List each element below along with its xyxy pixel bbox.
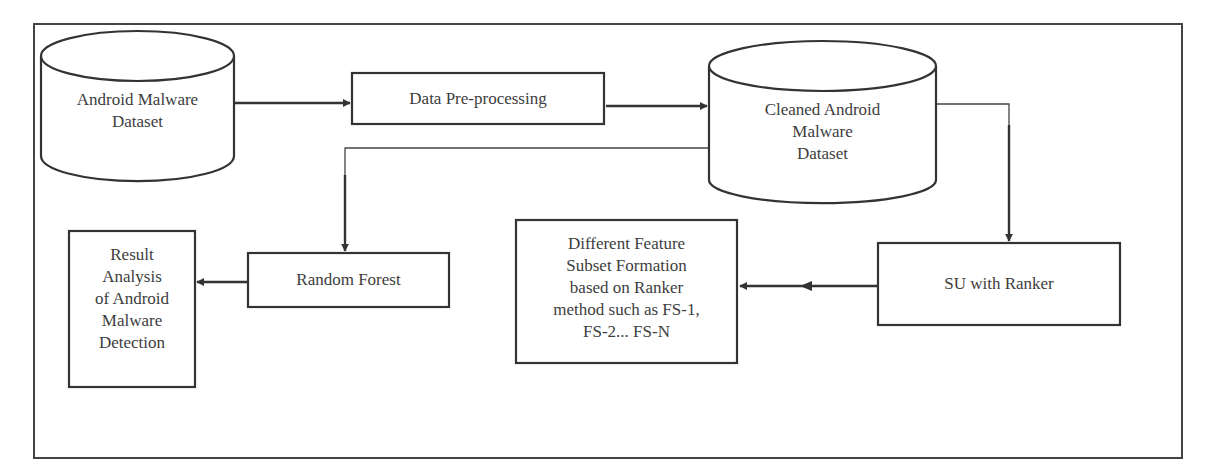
preprocessing-label: Data Pre-processing xyxy=(352,73,604,124)
su-ranker-label: SU with Ranker xyxy=(878,243,1120,325)
android-dataset-label: Android Malware Dataset xyxy=(41,86,234,136)
result-analysis-label: Result Analysis of Android Malware Detec… xyxy=(69,244,195,354)
edge-su-to-feature-subsets xyxy=(740,281,877,291)
feature-subsets-label: Different Feature Subset Formation based… xyxy=(516,233,737,343)
cleaned-dataset-label: Cleaned Android Malware Dataset xyxy=(709,96,936,168)
edge-cleaned-to-su xyxy=(937,104,1009,241)
random-forest-label: Random Forest xyxy=(248,253,449,307)
